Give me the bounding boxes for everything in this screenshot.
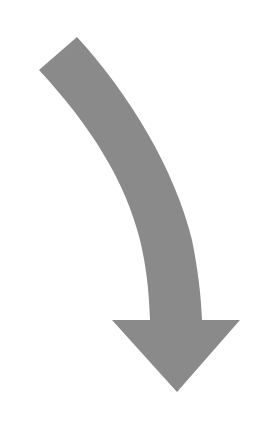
- figure-canvas: [0, 0, 274, 427]
- arrow-shape: [39, 37, 240, 392]
- curved-arrow-icon: [0, 0, 274, 427]
